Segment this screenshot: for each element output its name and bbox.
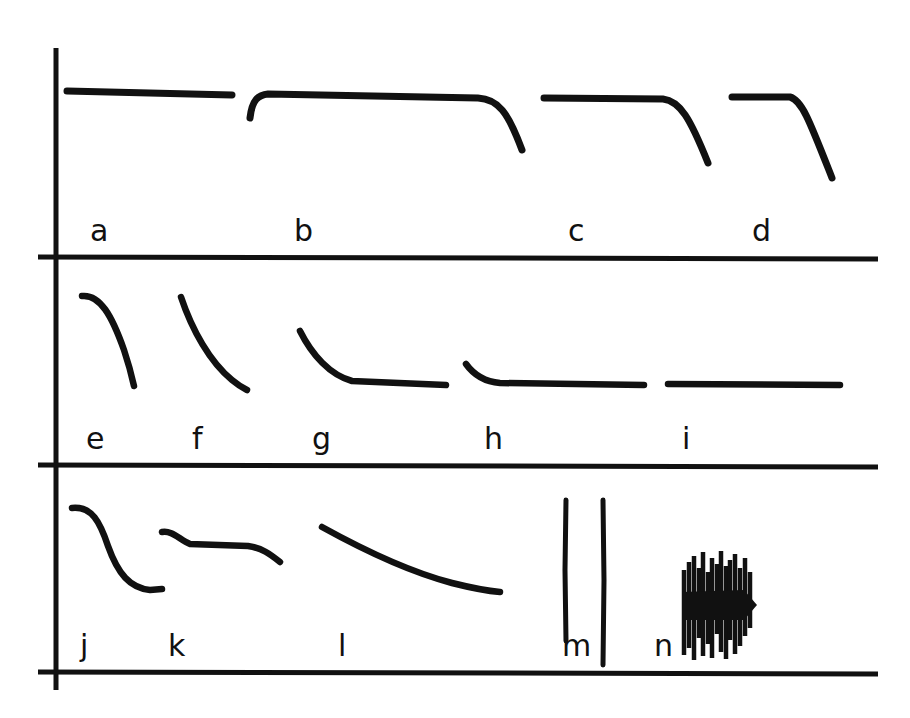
baseline-row-2 (38, 465, 878, 467)
spike-m-2 (603, 500, 604, 665)
trace-g (300, 331, 446, 385)
trace-h (466, 364, 644, 385)
trace-e (82, 296, 134, 386)
panel-label-d: d (752, 216, 771, 246)
row-2-traces (82, 296, 840, 390)
row-1-traces (67, 91, 832, 178)
panel-label-e: e (86, 424, 104, 454)
trace-j (72, 508, 162, 590)
trace-c (544, 98, 708, 163)
panel-label-f: f (192, 424, 203, 454)
panel-label-l: l (338, 631, 346, 661)
trace-a (67, 91, 232, 95)
trace-k (162, 532, 280, 562)
baseline-row-3 (38, 672, 878, 674)
panel-label-a: a (90, 216, 108, 246)
trace-l (322, 527, 500, 592)
panel-label-b: b (294, 216, 313, 246)
panel-label-j: j (80, 631, 88, 661)
panel-label-i: i (682, 424, 690, 454)
panel-label-m: m (562, 631, 591, 661)
panel-label-k: k (168, 631, 185, 661)
trace-d (732, 97, 832, 178)
baseline-row-1 (38, 257, 878, 259)
figure-canvas: a b c d e f g h i j k l m n (0, 0, 910, 718)
panel-label-n: n (654, 631, 673, 661)
trace-b (250, 94, 522, 150)
trace-f (181, 297, 247, 390)
trace-i (668, 384, 840, 385)
burst-core-band (682, 590, 757, 620)
panel-label-h: h (484, 424, 503, 454)
trace-n (682, 551, 757, 660)
spike-m-1 (565, 500, 566, 641)
panel-label-g: g (312, 424, 331, 454)
trace-figure-svg (0, 0, 910, 718)
panel-label-c: c (568, 216, 585, 246)
